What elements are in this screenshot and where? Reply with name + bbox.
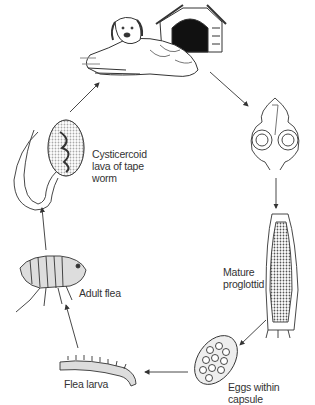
cysticercoid-label: Cysticercoid lava of tape worm [92,148,147,184]
cysticercoid-label-line1: Cysticercoid [92,148,147,160]
adult-flea-label: Adult flea [79,287,121,299]
adult-flea-icon [16,256,86,312]
cysticercoid-label-line2: lava of tape [92,160,147,172]
flea-larva-label: Flea larva [64,378,108,390]
proglottid-label: Mature proglottid [223,266,264,290]
proglottid-label-line1: Mature [223,266,264,278]
cysticercoid-icon [14,120,84,210]
cysticercoid-label-line3: worm [92,172,147,184]
tapeworm-scolex-icon [251,98,299,170]
proglottid-icon [266,214,298,338]
cycle-arrows [42,72,276,372]
dog-with-kennel-icon [80,5,226,76]
eggs-label: Eggs within capsule [228,381,315,405]
proglottid-label-line2: proglottid [223,278,264,290]
